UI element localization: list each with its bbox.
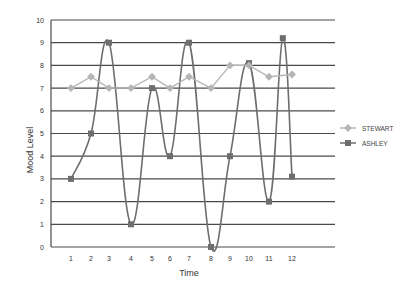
series-ashley [68, 35, 295, 251]
y-axis-ticks: 012345678910 [36, 17, 44, 251]
diamond-marker-icon [127, 84, 135, 92]
x-tick-label: 1 [69, 255, 73, 262]
diamond-marker-icon [67, 84, 75, 92]
series-line [71, 38, 292, 251]
legend-label: ASHLEY [362, 140, 388, 147]
legend: STEWARTASHLEY [340, 124, 393, 146]
y-tick-label: 7 [40, 85, 44, 92]
y-tick-label: 1 [40, 221, 44, 228]
y-tick-label: 6 [40, 107, 44, 114]
y-tick-label: 5 [40, 130, 44, 137]
x-axis-ticks: 123456789101112 [69, 255, 296, 262]
square-marker-icon [208, 244, 214, 250]
square-marker-icon [68, 176, 74, 182]
square-marker-icon [227, 153, 233, 159]
square-marker-icon [149, 85, 155, 91]
square-marker-icon [106, 40, 112, 46]
square-marker-icon [88, 131, 94, 137]
mood-line-chart: 012345678910 123456789101112 Time Mood L… [0, 0, 408, 292]
y-tick-label: 9 [40, 39, 44, 46]
x-tick-label: 3 [107, 255, 111, 262]
square-marker-icon [280, 35, 286, 41]
diamond-marker-icon [166, 84, 174, 92]
y-tick-label: 0 [40, 244, 44, 251]
square-marker-icon [167, 153, 173, 159]
series-lines [67, 35, 296, 251]
y-tick-label: 3 [40, 175, 44, 182]
diamond-marker-icon [265, 73, 273, 81]
square-marker-icon [345, 140, 351, 146]
x-tick-label: 6 [168, 255, 172, 262]
square-marker-icon [128, 221, 134, 227]
x-tick-label: 12 [288, 255, 296, 262]
square-marker-icon [186, 40, 192, 46]
x-axis-title: Time [179, 268, 199, 278]
legend-label: STEWART [362, 125, 393, 132]
x-tick-label: 5 [150, 255, 154, 262]
diamond-marker-icon [148, 73, 156, 81]
x-tick-label: 11 [265, 255, 272, 262]
x-tick-label: 10 [245, 255, 253, 262]
diamond-marker-icon [185, 73, 193, 81]
diamond-marker-icon [87, 73, 95, 81]
y-tick-label: 4 [40, 153, 44, 160]
y-tick-label: 8 [40, 62, 44, 69]
x-tick-label: 7 [187, 255, 191, 262]
diamond-marker-icon [105, 84, 113, 92]
x-tick-label: 4 [129, 255, 133, 262]
square-marker-icon [266, 199, 272, 205]
x-tick-label: 9 [228, 255, 232, 262]
x-tick-label: 8 [209, 255, 213, 262]
y-axis-title: Mood Level [25, 127, 35, 174]
y-tick-label: 10 [36, 17, 44, 24]
diamond-marker-icon [344, 124, 352, 132]
legend-item-stewart: STEWART [340, 124, 393, 132]
y-tick-label: 2 [40, 198, 44, 205]
diamond-marker-icon [288, 71, 296, 79]
legend-item-ashley: ASHLEY [340, 140, 388, 147]
square-marker-icon [289, 174, 295, 180]
x-tick-label: 2 [89, 255, 93, 262]
